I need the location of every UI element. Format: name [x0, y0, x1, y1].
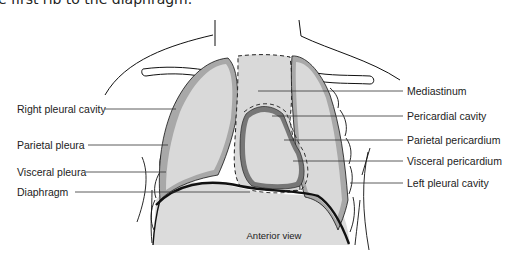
label-visceral-pericardium: Visceral pericardium — [407, 155, 502, 167]
figure-caption: Anterior view — [0, 230, 510, 241]
label-parietal-pericardium: Parietal pericardium — [407, 134, 500, 146]
label-diaphragm: Diaphragm — [17, 186, 68, 198]
pericardial-cavity — [245, 112, 299, 184]
label-right-pleural-cavity: Right pleural cavity — [17, 103, 106, 115]
right-pleural-cavity — [166, 64, 232, 190]
neck-line-right — [299, 20, 301, 36]
label-left-pleural-cavity: Left pleural cavity — [407, 177, 489, 189]
label-mediastinum: Mediastinum — [407, 85, 467, 97]
label-parietal-pleura: Parietal pleura — [17, 139, 85, 151]
label-visceral-pleura: Visceral pleura — [17, 166, 86, 178]
label-pericardial-cavity: Pericardial cavity — [407, 110, 486, 122]
